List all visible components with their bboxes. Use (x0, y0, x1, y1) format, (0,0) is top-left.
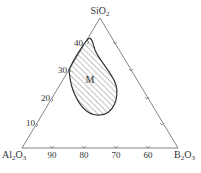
bottom-tick-70: 70 (112, 150, 122, 160)
left-tick-40: 40 (74, 38, 84, 48)
vertex-top-label: SiO2 (90, 5, 110, 18)
left-tick-20: 20 (41, 93, 51, 103)
left-tick-30: 30 (58, 65, 68, 75)
vertex-right-label: B2O3 (174, 149, 195, 162)
bottom-tick-80: 80 (80, 150, 90, 160)
left-tick-10: 10 (26, 118, 36, 128)
region-m-label: M (86, 74, 95, 85)
vertex-left-label: Al2O3 (2, 149, 27, 162)
ternary-diagram: SiO2 Al2O3 B2O3 10 20 30 40 90 80 70 60 … (0, 0, 201, 173)
bottom-tick-60: 60 (144, 150, 154, 160)
bottom-tick-90: 90 (48, 150, 58, 160)
